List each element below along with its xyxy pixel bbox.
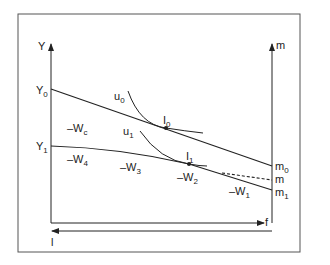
- m-axis-label: m: [276, 39, 285, 51]
- y0-label: Y0: [36, 84, 48, 99]
- outer-frame: [18, 14, 300, 252]
- u1-label: u1: [123, 125, 134, 140]
- budget-constraint-diagram: Y m f l Y0 Y1 m0 m m1 u0 u1 I0 I1 –Wc –W…: [0, 0, 330, 265]
- y-axis-label: Y: [38, 40, 46, 52]
- w3-label: –W3: [120, 161, 142, 176]
- wc-label: –Wc: [67, 122, 88, 137]
- y1-label: Y1: [36, 140, 48, 155]
- m-label: m: [275, 173, 284, 185]
- u0-label: u0: [114, 90, 125, 105]
- i1-label: I1: [186, 150, 194, 165]
- w2-label: –W2: [177, 171, 199, 186]
- budget-line-lower: [51, 146, 272, 190]
- w4-label: –W4: [67, 153, 89, 168]
- l-label: l: [51, 236, 53, 248]
- f-label: f: [265, 216, 269, 228]
- m1-label: m1: [275, 186, 289, 201]
- i0-label: I0: [163, 114, 171, 129]
- w1-label: –W1: [229, 185, 251, 200]
